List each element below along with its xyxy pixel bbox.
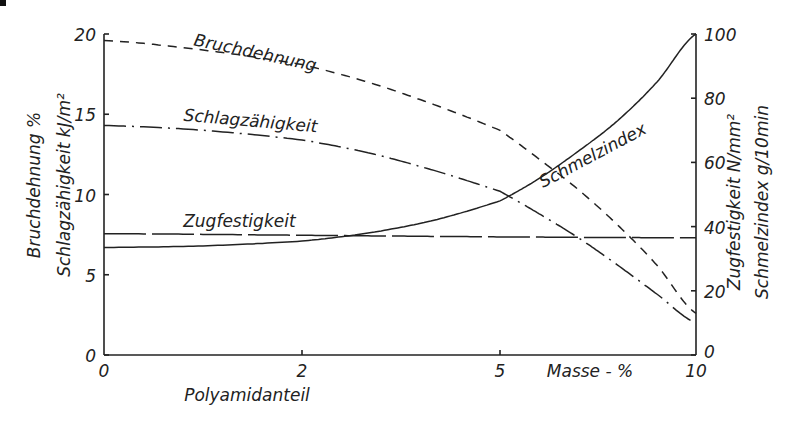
right-axis-title-2: Schmelzindex g/10min <box>752 105 772 299</box>
left-tick-label: 15 <box>74 105 96 125</box>
x-tick-label: 5 <box>495 361 506 381</box>
right-tick-label: 20 <box>704 282 726 302</box>
curves <box>104 34 696 323</box>
curve-label: Bruchdehnung <box>192 30 318 76</box>
curve-label: Zugfestigkeit <box>182 211 297 231</box>
right-tick-label: 100 <box>704 25 736 45</box>
right-axis-title-1: Zugfestigkeit N/mm² <box>724 114 744 291</box>
right-tick-label: 60 <box>704 153 726 173</box>
curve-zugfestigkeit <box>104 234 696 238</box>
right-tick-label: 80 <box>704 89 726 109</box>
right-tick-label: 0 <box>704 342 715 362</box>
labels: BruchdehnungSchlagzähigkeitZugfestigkeit… <box>182 30 650 231</box>
curve-bruchdehnung <box>104 40 696 313</box>
left-axis-title-1: Bruchdehnung % <box>24 112 44 258</box>
x-axis-title: Polyamidanteil <box>184 385 310 405</box>
left-axis-title-2: Schlagzähigkeit kJ/m² <box>54 93 74 277</box>
left-tick-label: 0 <box>85 346 96 366</box>
left-tick-label: 5 <box>85 266 96 286</box>
left-tick-label: 10 <box>74 186 96 206</box>
curve-label: Schmelzindex <box>536 118 651 192</box>
curve-label: Schlagzähigkeit <box>183 105 320 137</box>
right-tick-label: 40 <box>704 218 726 238</box>
left-tick-label: 20 <box>74 25 96 45</box>
line-chart: 0510152002040608010002510Masse - %Polyam… <box>0 0 793 427</box>
x-unit-label: Masse - % <box>547 361 633 381</box>
x-tick-label: 2 <box>297 361 308 381</box>
x-tick-label: 10 <box>685 361 707 381</box>
x-tick-label: 0 <box>99 361 110 381</box>
axes: 0510152002040608010002510Masse - %Polyam… <box>24 25 772 405</box>
